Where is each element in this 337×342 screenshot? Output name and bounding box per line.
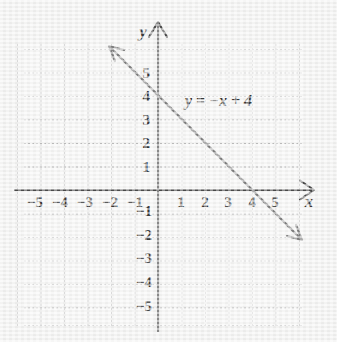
x-tick-4: 4 (248, 194, 256, 210)
x-tick-minus-5: −5 (27, 194, 43, 210)
y-tick-minus-1: −1 (136, 203, 152, 219)
x-tick-minus-4: −4 (52, 194, 69, 210)
x-tick-1: 1 (177, 194, 185, 210)
y-tick-minus-4: −4 (136, 274, 153, 290)
x-tick-5: 5 (271, 194, 279, 210)
x-tick-3: 3 (224, 194, 232, 210)
x-tick-minus-3: −3 (77, 194, 93, 210)
x-axis-label: x (304, 192, 314, 211)
y-tick-2: 2 (143, 135, 151, 151)
y-axis-label: y (137, 22, 147, 41)
y-tick-4: 4 (143, 88, 151, 104)
graph-figure: x y −5 −4 −3 −2 −1 1 2 3 4 5 5 4 3 2 1 −… (0, 0, 337, 342)
equation-annotation: y = −x + 4 (183, 92, 252, 110)
y-tick-5: 5 (143, 65, 151, 81)
y-tick-minus-5: −5 (136, 298, 152, 314)
x-tick-2: 2 (201, 194, 209, 210)
x-tick-minus-2: −2 (102, 194, 118, 210)
y-tick-minus-3: −3 (136, 250, 152, 266)
y-tick-1: 1 (143, 159, 151, 175)
y-tick-minus-2: −2 (136, 227, 152, 243)
coordinate-plane-svg: x y −5 −4 −3 −2 −1 1 2 3 4 5 5 4 3 2 1 −… (0, 0, 337, 342)
y-tick-3: 3 (143, 112, 151, 128)
